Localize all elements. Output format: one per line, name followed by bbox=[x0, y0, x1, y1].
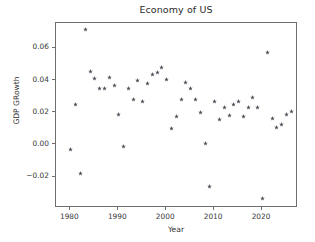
scatter-point bbox=[255, 105, 259, 109]
y-tick-mark bbox=[52, 111, 55, 112]
scatter-point bbox=[246, 105, 250, 109]
scatter-point bbox=[183, 80, 187, 84]
scatter-point bbox=[145, 81, 149, 85]
y-tick-mark bbox=[52, 143, 55, 144]
scatter-point bbox=[126, 86, 130, 90]
y-axis-label: GDP GRowth bbox=[12, 56, 21, 146]
scatter-point bbox=[265, 50, 269, 54]
scatter-point bbox=[102, 86, 106, 90]
scatter-point bbox=[112, 83, 116, 87]
x-tick-mark bbox=[117, 207, 118, 210]
scatter-point bbox=[150, 72, 154, 76]
scatter-point bbox=[121, 144, 125, 148]
scatter-point bbox=[217, 117, 221, 121]
scatter-point bbox=[284, 112, 288, 116]
y-tick-mark bbox=[52, 47, 55, 48]
scatter-point bbox=[88, 69, 92, 73]
scatter-point bbox=[203, 141, 207, 145]
y-tick-label: 0.06 bbox=[15, 42, 49, 51]
scatter-point bbox=[73, 102, 77, 106]
x-tick-mark bbox=[261, 207, 262, 210]
y-tick-mark bbox=[52, 176, 55, 177]
scatter-point bbox=[68, 147, 72, 151]
scatter-point bbox=[236, 99, 240, 103]
x-tick-label: 2010 bbox=[193, 212, 233, 221]
scatter-point bbox=[188, 86, 192, 90]
x-tick-label: 2000 bbox=[145, 212, 185, 221]
x-tick-mark bbox=[69, 207, 70, 210]
scatter-point bbox=[78, 171, 82, 175]
scatter-point bbox=[174, 114, 178, 118]
scatter-point bbox=[83, 27, 87, 31]
scatter-point bbox=[116, 112, 120, 116]
x-tick-mark bbox=[213, 207, 214, 210]
x-tick-label: 1980 bbox=[49, 212, 89, 221]
x-tick-mark bbox=[165, 207, 166, 210]
scatter-point bbox=[97, 86, 101, 90]
scatter-point bbox=[241, 114, 245, 118]
scatter-point bbox=[169, 126, 173, 130]
scatter-point bbox=[198, 110, 202, 114]
scatter-point bbox=[164, 77, 168, 81]
scatter-point bbox=[135, 78, 139, 82]
scatter-point bbox=[207, 184, 211, 188]
chart-title: Economy of US bbox=[55, 4, 297, 15]
scatter-point bbox=[289, 109, 293, 113]
scatter-point bbox=[131, 97, 135, 101]
scatter-point bbox=[155, 70, 159, 74]
scatter-point bbox=[212, 99, 216, 103]
scatter-point bbox=[260, 196, 264, 200]
scatter-point bbox=[159, 65, 163, 69]
scatter-point bbox=[250, 95, 254, 99]
scatter-point bbox=[107, 75, 111, 79]
x-axis-label: Year bbox=[55, 225, 297, 234]
scatter-point bbox=[92, 76, 96, 80]
plot-axes-frame bbox=[55, 22, 297, 207]
scatter-point bbox=[193, 97, 197, 101]
scatter-point bbox=[274, 125, 278, 129]
y-tick-mark bbox=[52, 79, 55, 80]
scatter-point bbox=[140, 99, 144, 103]
scatter-point bbox=[270, 116, 274, 120]
x-tick-label: 1990 bbox=[97, 212, 137, 221]
scatter-point bbox=[179, 97, 183, 101]
matplotlib-figure: Economy of US −0.020.000.020.040.06 1980… bbox=[0, 0, 315, 242]
scatter-point bbox=[222, 105, 226, 109]
x-tick-label: 2020 bbox=[241, 212, 281, 221]
scatter-point bbox=[231, 102, 235, 106]
y-tick-label: −0.02 bbox=[15, 171, 49, 180]
scatter-point bbox=[279, 122, 283, 126]
scatter-points-layer bbox=[56, 23, 296, 206]
scatter-point bbox=[227, 113, 231, 117]
